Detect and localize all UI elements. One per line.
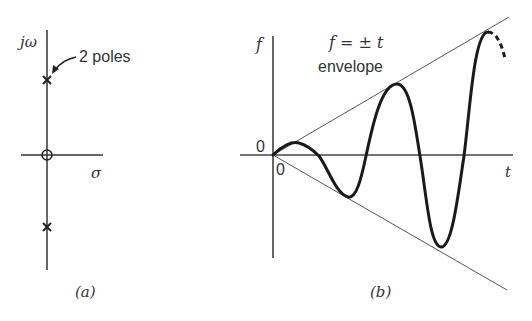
panel-a: jω 2 poles σ (a) (17, 30, 131, 301)
t-axis-label: t (505, 163, 512, 181)
pole-annotation-arrow-icon (52, 57, 76, 74)
response-curve-continuation (488, 32, 505, 59)
sigma-axis-label: σ (91, 164, 102, 182)
envelope-equation: f = ± t (328, 33, 384, 52)
envelope-label: envelope (318, 58, 383, 75)
lower-envelope-line (273, 155, 507, 290)
panel-b: f f = ± t envelope 0 0 t (b) (240, 17, 513, 301)
figure-canvas: jω 2 poles σ (a) f f = ± t envelope 0 0 … (0, 0, 532, 321)
jw-axis-label: jω (17, 33, 37, 51)
f-axis-label: f (255, 35, 265, 54)
poles-annotation: 2 poles (79, 48, 131, 65)
panel-a-caption: (a) (75, 283, 96, 301)
origin-label-x: 0 (276, 161, 285, 178)
origin-label-y: 0 (256, 138, 265, 155)
panel-b-caption: (b) (370, 283, 391, 301)
